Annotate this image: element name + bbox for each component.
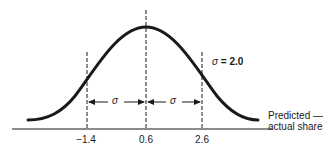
tick-label-minus-1-4: −1.4 bbox=[76, 134, 96, 145]
x-axis-label: Predicted — actual share bbox=[268, 110, 323, 132]
sigma-value: = 2.0 bbox=[218, 56, 243, 67]
tick-label-0-6: 0.6 bbox=[139, 134, 153, 145]
arrowhead-left-icon bbox=[88, 99, 95, 105]
normal-curve-chart bbox=[0, 0, 332, 156]
arrowhead-left-icon bbox=[147, 99, 154, 105]
arrowhead-right-icon bbox=[138, 99, 145, 105]
sigma-span-left-label: σ bbox=[112, 95, 118, 106]
arrowhead-right-icon bbox=[194, 99, 201, 105]
x-axis-label-line1: Predicted — bbox=[268, 110, 323, 121]
tick-label-2-6: 2.6 bbox=[195, 134, 209, 145]
x-axis-label-line2: actual share bbox=[268, 121, 323, 132]
sigma-annotation: σ = 2.0 bbox=[212, 56, 243, 67]
normal-curve bbox=[28, 27, 258, 120]
sigma-span-right-label: σ bbox=[170, 95, 176, 106]
